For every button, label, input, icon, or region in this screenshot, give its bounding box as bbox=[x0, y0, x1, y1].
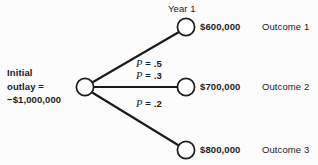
outcome-label-2: Outcome 2 bbox=[262, 81, 309, 92]
probability-value-2: = .3 bbox=[145, 70, 162, 81]
outcome-node-circle-1 bbox=[177, 18, 194, 35]
outcome-label-1: Outcome 1 bbox=[262, 21, 309, 32]
outcome-label-3: Outcome 3 bbox=[262, 144, 309, 155]
amount-label-2: $700,000 bbox=[200, 81, 240, 92]
probability-label-1: P = .5 bbox=[136, 58, 162, 69]
initial-outlay-line-1: Initial bbox=[7, 66, 61, 80]
root-node-circle bbox=[76, 78, 93, 95]
probability-value-1: = .5 bbox=[145, 58, 162, 69]
initial-outlay-line-2: outlay = bbox=[7, 80, 61, 94]
probability-symbol-3: P bbox=[136, 98, 143, 109]
outcome-node-circle-3 bbox=[177, 141, 194, 158]
initial-outlay-label: Initial outlay = −$1,000,000 bbox=[7, 66, 61, 107]
year-header-label: Year 1 bbox=[168, 3, 196, 14]
probability-label-3: P = .2 bbox=[136, 98, 162, 109]
probability-value-3: = .2 bbox=[145, 98, 162, 109]
probability-symbol-1: P bbox=[136, 58, 143, 69]
probability-label-2: P = .3 bbox=[136, 70, 162, 81]
amount-label-1: $600,000 bbox=[200, 21, 240, 32]
amount-label-3: $800,000 bbox=[200, 144, 240, 155]
probability-symbol-2: P bbox=[136, 70, 143, 81]
decision-tree-diagram: Year 1 Initial outlay = −$1,000,000 P = … bbox=[0, 0, 318, 165]
outcome-node-circle-2 bbox=[177, 78, 194, 95]
initial-outlay-line-3: −$1,000,000 bbox=[7, 93, 61, 107]
